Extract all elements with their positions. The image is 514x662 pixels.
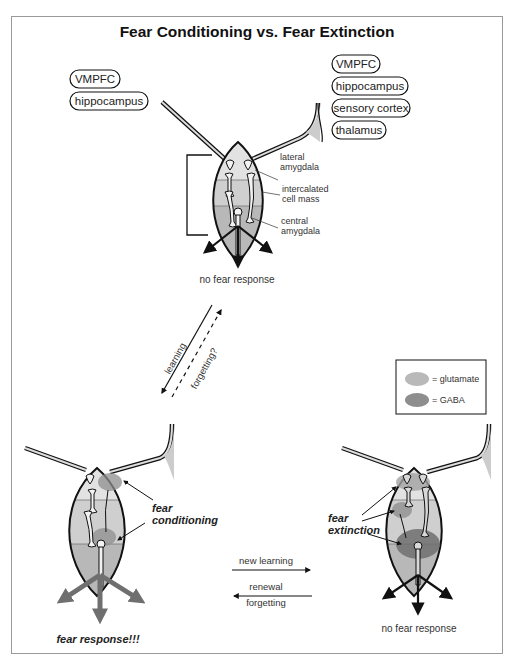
diagram-canvas: Fear Conditioning vs. Fear Extinction VM… — [0, 0, 514, 662]
gaba-swatch — [405, 393, 429, 407]
label-central-amygdala: centralamygdala — [281, 216, 320, 236]
label-lateral-amygdala: lateralamygdala — [280, 152, 319, 172]
fear-conditioning-diagram: fearconditioning fear response!!! — [25, 424, 218, 645]
svg-text:sensory cortex: sensory cortex — [334, 102, 409, 114]
fear-conditioning-annotation: fearconditioning — [152, 502, 218, 526]
legend-gaba: = GABA — [432, 395, 465, 405]
input-pill-thalamus: thalamus — [332, 121, 386, 139]
forgetting-label: forgetting — [246, 597, 286, 608]
input-pill-hippocampus-right: hippocampus — [332, 77, 408, 95]
input-pill-hippocampus-left: hippocampus — [70, 92, 148, 110]
new-learning-renewal-arrows: new learning renewal forgetting — [232, 555, 312, 608]
fear-extinction-annotation: fearextinction — [328, 512, 380, 536]
bottom-right-outcome-label: no fear response — [381, 623, 456, 634]
legend: = glutamate = GABA — [396, 360, 486, 414]
svg-text:VMPFC: VMPFC — [75, 73, 115, 85]
input-pill-vmpfc-left: VMPFC — [70, 70, 120, 88]
learning-forgetting-arrows: learning forgetting? — [162, 305, 221, 397]
fear-response-label: fear response!!! — [56, 633, 139, 645]
svg-text:VMPFC: VMPFC — [336, 58, 376, 70]
diagram-title: Fear Conditioning vs. Fear Extinction — [120, 23, 395, 40]
fear-extinction-diagram: fearextinction no fear response — [328, 424, 491, 634]
top-amygdala-diagram: VMPFC hippocampus VMPFC hippocampus sens… — [70, 55, 410, 285]
input-pill-sensory-cortex: sensory cortex — [332, 99, 410, 117]
svg-text:thalamus: thalamus — [336, 124, 383, 136]
glutamate-swatch — [405, 372, 429, 386]
svg-text:hippocampus: hippocampus — [336, 80, 405, 92]
legend-glutamate: = glutamate — [432, 374, 479, 384]
new-learning-label: new learning — [239, 555, 293, 566]
label-intercalated-cell-mass: intercalatedcell mass — [282, 184, 329, 204]
forgetting-question-label: forgetting? — [188, 346, 219, 391]
renewal-label: renewal — [249, 581, 282, 592]
input-pill-vmpfc-right: VMPFC — [332, 55, 380, 73]
top-outcome-label: no fear response — [199, 274, 274, 285]
svg-text:hippocampus: hippocampus — [75, 95, 144, 107]
